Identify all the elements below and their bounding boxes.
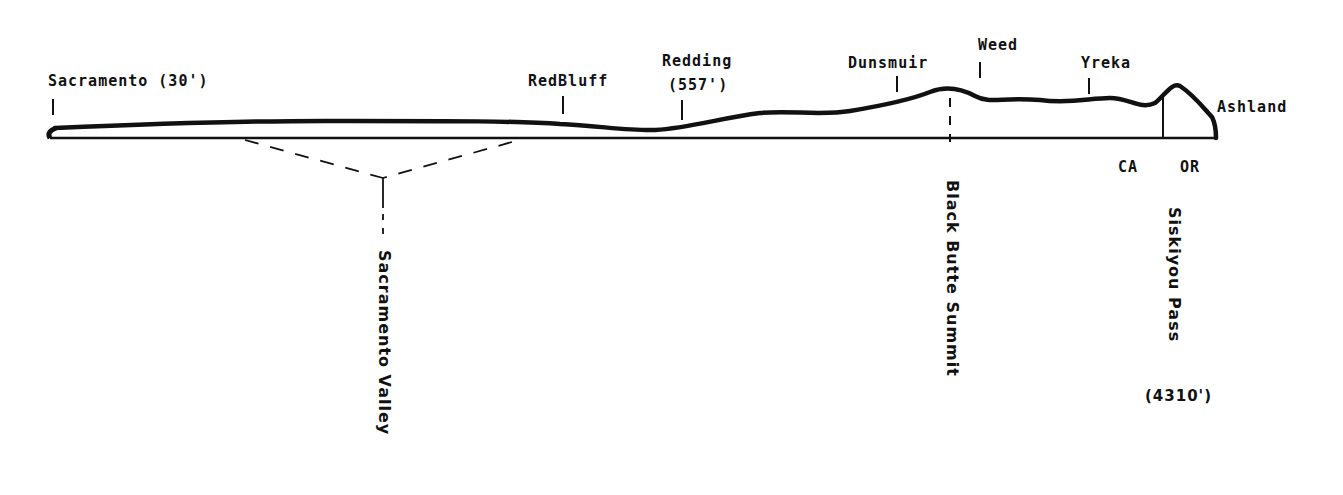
label-siskiyou-elevation: (4310') xyxy=(1145,387,1212,405)
label-state-ca: CA xyxy=(1118,158,1138,176)
label-dunsmuir: Dunsmuir xyxy=(848,54,928,72)
label-yreka: Yreka xyxy=(1081,54,1131,72)
valley-bracket-right xyxy=(383,142,512,178)
label-sacramento-valley: Sacramento Valley xyxy=(375,250,394,435)
label-state-or: OR xyxy=(1180,158,1200,176)
label-ashland: Ashland xyxy=(1217,98,1287,116)
label-black-butte-summit: Black Butte Summit xyxy=(943,180,962,377)
label-siskiyou-pass: Siskiyou Pass xyxy=(1165,207,1184,342)
valley-bracket-left xyxy=(245,140,383,178)
label-redding: Redding xyxy=(662,52,732,70)
label-weed: Weed xyxy=(978,36,1018,54)
profile-line xyxy=(55,85,1216,138)
label-redding-elevation: (557') xyxy=(668,76,728,94)
label-redbluff: RedBluff xyxy=(528,72,608,90)
label-sacramento: Sacramento (30') xyxy=(48,72,209,90)
